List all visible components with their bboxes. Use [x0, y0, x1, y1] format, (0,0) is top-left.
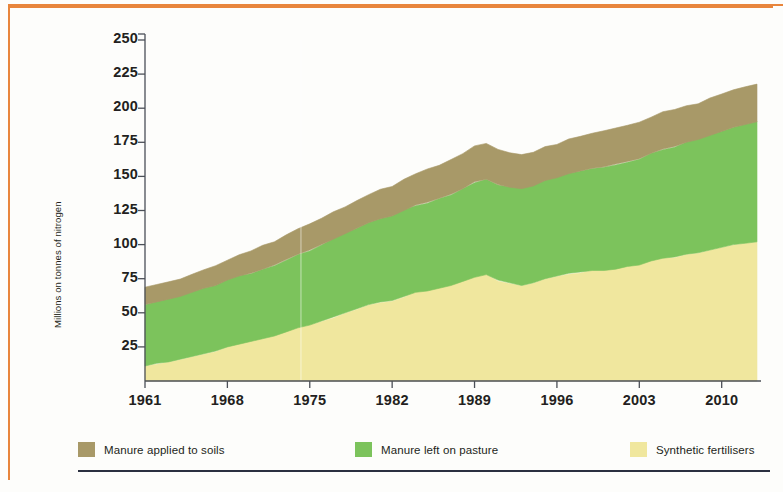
chart-legend: Manure applied to soilsManure left on pa…	[0, 436, 783, 464]
legend-item[interactable]: Manure applied to soils	[78, 442, 225, 457]
x-tick-label: 1968	[211, 392, 244, 408]
x-tick-label: 1989	[458, 392, 491, 408]
x-tick-label: 2003	[623, 392, 656, 408]
legend-label: Manure left on pasture	[381, 444, 498, 456]
figure-container: Millions on tonnes of nitrogen 255075100…	[0, 0, 783, 492]
legend-label: Synthetic fertilisers	[656, 444, 755, 456]
legend-swatch	[355, 442, 372, 457]
x-tick-label: 1982	[376, 392, 409, 408]
legend-swatch	[78, 442, 95, 457]
x-tick-label: 1961	[128, 392, 161, 408]
x-axis-tick-labels: 19611968197519821989199620032010	[0, 392, 783, 414]
legend-label: Manure applied to soils	[104, 444, 225, 456]
scan-seam-artifact	[300, 40, 301, 381]
x-tick-label: 1996	[540, 392, 573, 408]
stacked-area-chart	[0, 0, 783, 430]
x-tick-label: 2010	[705, 392, 738, 408]
chart-plot-area: Millions on tonnes of nitrogen 255075100…	[0, 0, 783, 430]
legend-item[interactable]: Synthetic fertilisers	[630, 442, 755, 457]
legend-swatch	[630, 442, 647, 457]
footer-divider	[78, 470, 770, 472]
x-tick-label: 1975	[293, 392, 326, 408]
legend-item[interactable]: Manure left on pasture	[355, 442, 498, 457]
